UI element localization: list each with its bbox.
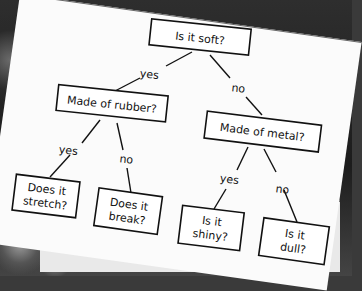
edge-n0-n1-b — [115, 78, 140, 91]
edge-n1-n4-b — [127, 168, 131, 193]
edge-label-metal-yes: yes — [219, 172, 240, 187]
edge-n2-n5-b — [214, 189, 226, 209]
node-does-it-stretch — [12, 174, 80, 218]
node-label-shiny-line1: Is it — [201, 214, 223, 229]
node-is-it-shiny — [178, 205, 244, 250]
edge-n0-n2-a — [210, 55, 230, 78]
edge-label-metal-no: no — [275, 182, 290, 197]
edge-n0-n1-a — [166, 52, 192, 66]
edge-n0-n2-b — [246, 97, 262, 115]
edge-n1-n4-a — [117, 123, 123, 150]
edge-n2-n5-a — [237, 147, 248, 170]
edge-n1-n3-a — [82, 120, 100, 143]
edge-label-soft-yes: yes — [139, 67, 160, 82]
edge-label-rubber-yes: yes — [58, 143, 79, 158]
edge-label-rubber-no: no — [119, 152, 134, 166]
edge-n2-n6-a — [264, 149, 276, 172]
edge-label-soft-no: no — [231, 81, 246, 95]
edge-n1-n3-b — [50, 155, 70, 177]
node-does-it-break — [94, 188, 163, 235]
